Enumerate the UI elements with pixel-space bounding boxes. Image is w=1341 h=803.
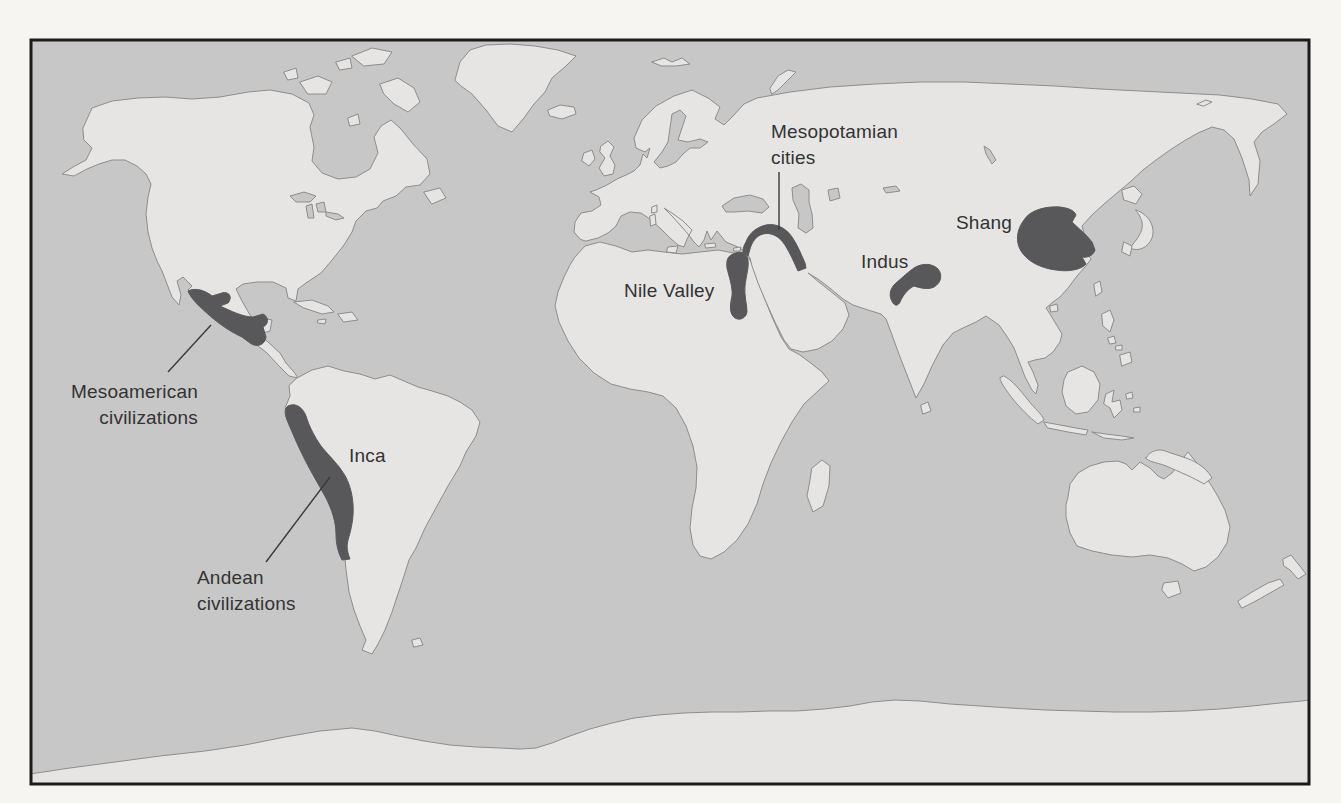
world-map-figure: Mesopotamian cities Nile Valley Indus Sh… (0, 0, 1341, 803)
label-indus: Indus (861, 249, 908, 275)
label-nile-valley: Nile Valley (624, 278, 715, 304)
island-sicily (667, 246, 678, 253)
label-inca: Inca (349, 443, 386, 469)
island-crete (705, 243, 716, 248)
island-jamaica (318, 319, 326, 324)
island-cyprus (734, 247, 741, 251)
island-hainan (1050, 304, 1058, 312)
label-shang: Shang (956, 210, 1012, 236)
world-map (0, 0, 1341, 803)
label-mesoamerican-civilizations: Mesoamerican civilizations (38, 379, 198, 431)
label-andean-civilizations: Andean civilizations (197, 565, 296, 617)
label-mesopotamian-cities: Mesopotamian cities (771, 119, 898, 171)
aral-sea (828, 188, 840, 201)
